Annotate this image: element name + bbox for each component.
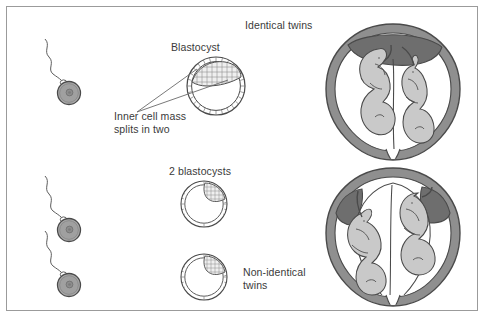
- label-identical-twins: Identical twins: [245, 19, 312, 32]
- sperm-and-egg-bottom-2: [35, 225, 105, 297]
- sperm-icon-top: [45, 39, 67, 85]
- inner-cell-mass-leader-lines: [133, 67, 243, 115]
- sperm-icon-bottom-1: [45, 176, 67, 222]
- egg-cell-bottom-2: [58, 274, 81, 297]
- egg-cell-top: [58, 82, 81, 105]
- dividing-membrane-top: [393, 59, 394, 149]
- blastocyst-bottom-2: [179, 252, 229, 302]
- sperm-icon-bottom-2: [45, 231, 67, 277]
- sperm-and-egg-top: [35, 33, 105, 105]
- label-two-blastocysts: 2 blastocysts: [169, 165, 231, 178]
- uterus-non-identical-twins: [318, 165, 468, 310]
- label-non-identical-twins: Non-identical twins: [243, 266, 306, 291]
- cervix-bottom: [386, 295, 400, 309]
- twin-formation-figure: Identical twins Blastocyst Inner cell ma…: [0, 0, 485, 318]
- figure-frame: Identical twins Blastocyst Inner cell ma…: [6, 6, 478, 311]
- uterus-identical-twins: [318, 21, 468, 163]
- label-blastocyst: Blastocyst: [171, 41, 220, 54]
- blastocyst-bottom-1: [179, 179, 229, 229]
